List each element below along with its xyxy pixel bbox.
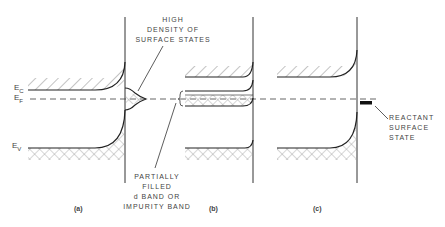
d-band-top-b xyxy=(185,80,253,91)
band-diagram xyxy=(0,0,445,227)
ef-label: EF xyxy=(14,93,23,104)
surface-states-annotation: HIGH DENSITY OF SURFACE STATES xyxy=(133,15,213,45)
arrow-surface-states xyxy=(138,46,163,91)
valence-band-edge-c xyxy=(277,112,357,148)
reactant-annotation: REACTANT SURFACE STATE xyxy=(389,113,434,143)
arrow-partial-band xyxy=(155,103,176,168)
panel-label-a: (a) xyxy=(74,205,83,212)
panel-label-c: (c) xyxy=(313,205,322,212)
arrow-reactant xyxy=(375,106,388,119)
valence-band-edge-b xyxy=(185,140,253,148)
valence-band-edge-a xyxy=(28,110,125,148)
panel-label-b: (b) xyxy=(209,205,218,212)
d-band-brace xyxy=(178,91,183,106)
reactant-surface-state-bar xyxy=(360,101,372,105)
ec-label: EC xyxy=(14,83,24,94)
partial-band-annotation: PARTIALLY FILLED d BAND OR IMPURITY BAND xyxy=(117,172,197,212)
ev-label: EV xyxy=(12,141,21,152)
panel-c xyxy=(277,17,388,183)
